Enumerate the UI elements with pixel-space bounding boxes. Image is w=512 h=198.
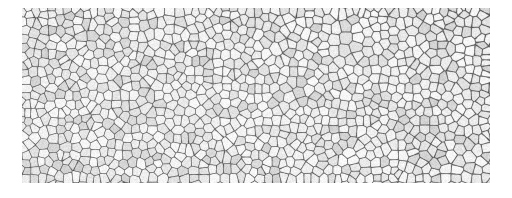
page-root <box>0 0 512 198</box>
micrograph-canvas <box>22 8 490 183</box>
micrograph-image <box>22 8 490 183</box>
figure-caption <box>0 0 1 1</box>
